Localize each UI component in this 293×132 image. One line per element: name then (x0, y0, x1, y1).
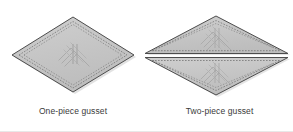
one-piece-gusset-shape (12, 17, 136, 94)
gusset-figure: One-piece gusset Two-piece gusset (0, 0, 293, 132)
two-piece-gusset-shape (145, 16, 290, 97)
two-piece-upper-outline (145, 16, 288, 54)
one-piece-gusset-caption: One-piece gusset (0, 106, 146, 117)
two-piece-lower-triangle (145, 58, 290, 98)
two-piece-lower-outline (145, 58, 288, 96)
two-piece-gusset-caption: Two-piece gusset (146, 106, 293, 117)
two-piece-upper-triangle (145, 16, 290, 55)
